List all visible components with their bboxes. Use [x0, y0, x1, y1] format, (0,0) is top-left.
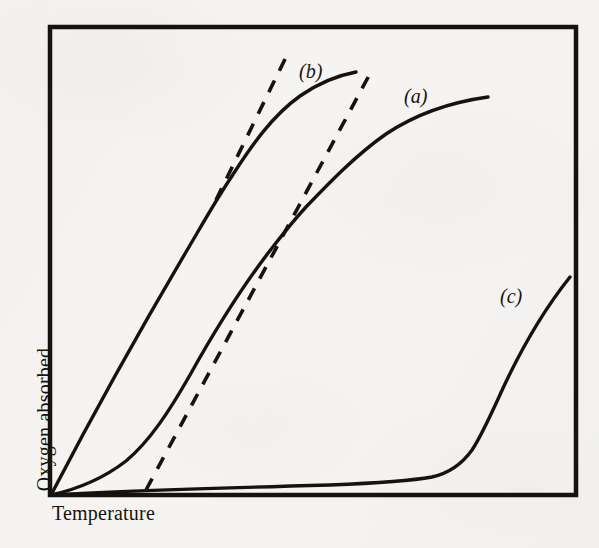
- curve-b: [51, 72, 356, 495]
- curve-a: [51, 97, 488, 495]
- tangent-line-a: [146, 70, 372, 490]
- curve-c: [51, 277, 570, 495]
- tangent-line-b: [216, 51, 289, 200]
- oxygen-absorption-figure: Oxygen absorbed Temperature (b) (a) (c): [0, 0, 599, 548]
- curve-label-a: (a): [404, 85, 427, 108]
- y-axis-label: Oxygen absorbed: [33, 330, 56, 510]
- plot-frame: [50, 27, 576, 495]
- x-axis-label: Temperature: [52, 502, 155, 525]
- curve-label-c: (c): [500, 285, 522, 308]
- curve-label-b: (b): [299, 60, 322, 83]
